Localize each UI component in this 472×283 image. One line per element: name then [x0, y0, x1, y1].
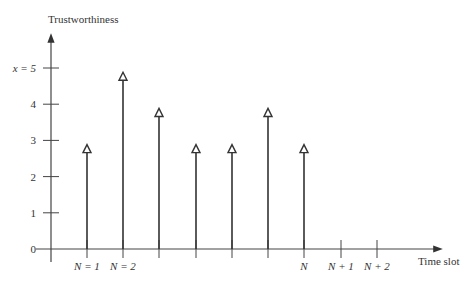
triangle-marker-icon [119, 72, 127, 80]
y-ticks: 01234x = 5 [12, 62, 59, 255]
y-tick-label: 2 [31, 171, 37, 183]
triangle-marker-icon [192, 145, 200, 153]
trustworthiness-stem-chart: Trustworthiness Time slot 01234x = 5 N =… [0, 0, 472, 283]
x-tick-label: N = 1 [73, 260, 100, 272]
y-tick-label: x = 5 [12, 62, 37, 74]
triangle-marker-icon [228, 145, 236, 153]
x-tick-label: N = 2 [109, 260, 136, 272]
triangle-marker-icon [155, 108, 163, 116]
stems [83, 72, 308, 249]
y-tick-label: 3 [31, 134, 37, 146]
triangle-marker-icon [300, 145, 308, 153]
x-tick-label: N + 2 [363, 260, 390, 272]
x-tick-label: N [299, 260, 308, 272]
triangle-marker-icon [83, 145, 91, 153]
y-tick-label: 0 [31, 243, 37, 255]
x-tick-label: N + 1 [327, 260, 354, 272]
y-axis-label: Trustworthiness [48, 13, 119, 25]
x-axis-label: Time slot [418, 255, 459, 267]
triangle-marker-icon [264, 108, 272, 116]
y-tick-label: 1 [31, 207, 37, 219]
axes [36, 38, 438, 262]
y-tick-label: 4 [31, 98, 37, 110]
